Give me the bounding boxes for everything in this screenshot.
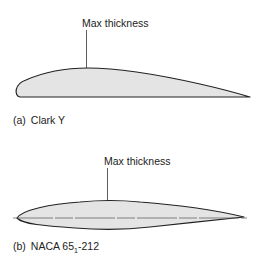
panel-clark-y: Max thickness (a)Clark Y xyxy=(13,17,250,126)
naca-airfoil xyxy=(17,201,244,230)
caption-a: (a)Clark Y xyxy=(13,114,65,126)
max-thickness-label-a: Max thickness xyxy=(82,17,149,29)
airfoil-diagram: Max thickness (a)Clark Y Max thickness (… xyxy=(0,0,263,264)
clark-y-airfoil xyxy=(16,68,250,97)
panel-naca-65-212: Max thickness (b)NACA 651-212 xyxy=(13,155,247,254)
caption-b: (b)NACA 651-212 xyxy=(13,240,99,254)
max-thickness-label-b: Max thickness xyxy=(104,155,171,167)
